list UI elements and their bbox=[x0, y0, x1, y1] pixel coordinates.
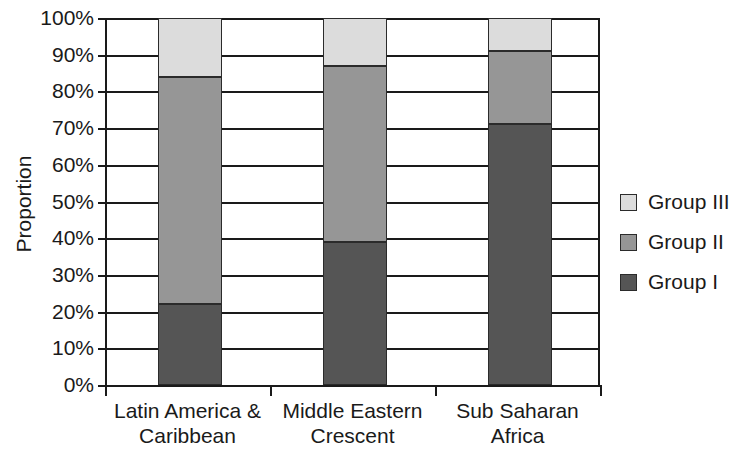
bar-stack bbox=[323, 18, 387, 385]
legend-item-label: Group II bbox=[648, 230, 724, 254]
bar-segment bbox=[488, 51, 552, 124]
bar-segment bbox=[488, 18, 552, 51]
legend-item-label: Group I bbox=[648, 270, 718, 294]
x-axis-label-line: Middle Eastern bbox=[270, 398, 435, 423]
y-axis-tick bbox=[98, 238, 107, 240]
y-axis-tick bbox=[98, 128, 107, 130]
plot-area: 100%90%80%70%60%50%40%30%20%10%0% bbox=[105, 18, 600, 385]
y-axis-tick-label: 90% bbox=[52, 43, 94, 67]
x-axis-label: Middle EasternCrescent bbox=[270, 398, 435, 448]
bar-segment bbox=[323, 66, 387, 242]
bar-segment bbox=[488, 124, 552, 385]
x-axis-label-line: Crescent bbox=[270, 423, 435, 448]
bar-stack bbox=[158, 18, 222, 385]
bar-stack bbox=[488, 18, 552, 385]
x-axis-tick bbox=[105, 385, 107, 396]
legend-swatch-icon bbox=[620, 234, 637, 251]
x-axis-label-line: Africa bbox=[435, 423, 600, 448]
legend-swatch-icon bbox=[620, 274, 637, 291]
y-axis-tick-label: 100% bbox=[40, 6, 94, 30]
legend-item[interactable]: Group II bbox=[620, 222, 730, 262]
bar-segment bbox=[158, 18, 222, 77]
x-axis-label-line: Sub Saharan bbox=[435, 398, 600, 423]
y-axis-tick-label: 20% bbox=[52, 300, 94, 324]
y-axis-title: Proportion bbox=[12, 94, 36, 314]
x-axis-label: Sub SaharanAfrica bbox=[435, 398, 600, 448]
legend-swatch-icon bbox=[620, 194, 637, 211]
stacked-bar-chart: Proportion 100%90%80%70%60%50%40%30%20%1… bbox=[0, 0, 738, 462]
x-axis-label-line: Latin America & bbox=[105, 398, 270, 423]
y-axis-tick bbox=[98, 165, 107, 167]
y-axis-tick-label: 70% bbox=[52, 116, 94, 140]
bar-segment bbox=[158, 77, 222, 305]
legend-item[interactable]: Group III bbox=[620, 182, 730, 222]
chart-legend: Group IIIGroup IIGroup I bbox=[620, 182, 730, 302]
x-axis-tick bbox=[600, 385, 602, 396]
y-axis-tick-label: 80% bbox=[52, 79, 94, 103]
y-axis-tick bbox=[98, 91, 107, 93]
y-axis-tick-label: 30% bbox=[52, 263, 94, 287]
y-axis-tick bbox=[98, 55, 107, 57]
legend-item[interactable]: Group I bbox=[620, 262, 730, 302]
y-axis-tick-label: 50% bbox=[52, 190, 94, 214]
y-axis-tick bbox=[98, 18, 107, 20]
bar-segment bbox=[158, 304, 222, 385]
y-axis-tick-label: 0% bbox=[64, 373, 94, 397]
bar-segment bbox=[323, 242, 387, 385]
y-axis-tick-label: 40% bbox=[52, 226, 94, 250]
bar-segment bbox=[323, 18, 387, 66]
y-axis-tick bbox=[98, 275, 107, 277]
legend-item-label: Group III bbox=[648, 190, 730, 214]
x-axis-label-line: Caribbean bbox=[105, 423, 270, 448]
x-axis-label: Latin America &Caribbean bbox=[105, 398, 270, 448]
y-axis-tick-label: 60% bbox=[52, 153, 94, 177]
y-axis-tick bbox=[98, 348, 107, 350]
y-axis-tick bbox=[98, 312, 107, 314]
x-axis-tick bbox=[270, 385, 272, 396]
x-axis-tick bbox=[435, 385, 437, 396]
y-axis-tick-label: 10% bbox=[52, 336, 94, 360]
x-axis-line bbox=[105, 385, 600, 387]
y-axis-tick bbox=[98, 202, 107, 204]
